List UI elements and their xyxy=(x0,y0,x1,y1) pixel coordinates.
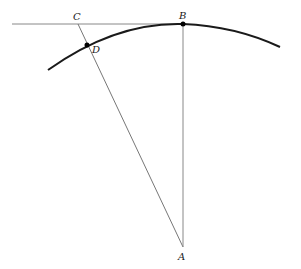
label-b: B xyxy=(178,10,186,21)
label-c: C xyxy=(73,11,81,22)
label-a: A xyxy=(177,251,185,262)
point-d xyxy=(85,43,90,48)
label-d: D xyxy=(91,44,100,55)
circle-arc xyxy=(48,24,280,70)
point-b xyxy=(181,22,186,27)
geometry-diagram: C B D A xyxy=(0,0,301,269)
segment-ca xyxy=(78,24,183,247)
